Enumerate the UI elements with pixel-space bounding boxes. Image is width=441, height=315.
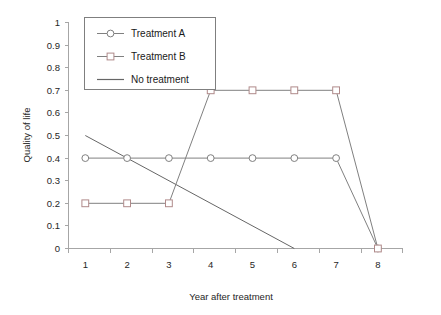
y-tick-label: 0 [55, 243, 60, 254]
x-tick-label: 3 [166, 259, 171, 270]
data-point-marker [249, 155, 256, 162]
y-tick-label: 0.4 [47, 153, 60, 164]
data-point-marker [291, 155, 298, 162]
data-point-marker [291, 87, 298, 94]
circle-marker-icon [107, 30, 114, 37]
x-axis-title: Year after treatment [189, 291, 273, 302]
legend-label-treatment-a: Treatment A [131, 28, 185, 39]
data-point-marker [82, 155, 89, 162]
data-point-marker [82, 200, 89, 207]
x-tick-label: 7 [333, 259, 338, 270]
x-tick-label: 8 [375, 259, 380, 270]
y-tick-label: 0.5 [47, 130, 60, 141]
y-tick-label: 0.1 [47, 220, 60, 231]
y-axis-title: Quality of life [21, 108, 32, 163]
data-point-marker [166, 155, 173, 162]
y-tick-label: 0.8 [47, 62, 60, 73]
y-tick-label: 0.3 [47, 175, 60, 186]
x-tick-label: 4 [208, 259, 213, 270]
legend-item-treatment-b[interactable]: Treatment B [97, 51, 186, 62]
y-tick-label: 1 [55, 17, 60, 28]
square-marker-icon [107, 53, 114, 60]
data-point-marker [124, 200, 131, 207]
legend-label-treatment-b: Treatment B [131, 51, 186, 62]
data-point-marker [207, 155, 214, 162]
y-tick-label: 0.7 [47, 85, 60, 96]
y-tick-label: 0.6 [47, 107, 60, 118]
data-point-marker [375, 245, 382, 252]
x-tick-label: 1 [83, 259, 88, 270]
data-point-marker [333, 87, 340, 94]
chart-container: 1 0.9 0.8 0.7 0.6 0.5 0.4 0.3 0.2 0.1 0 … [0, 0, 441, 315]
x-tick-label: 6 [292, 259, 297, 270]
legend-item-treatment-a[interactable]: Treatment A [97, 28, 185, 39]
y-tick-label: 0.2 [47, 198, 60, 209]
x-tick-label: 5 [250, 259, 255, 270]
line-chart: 1 0.9 0.8 0.7 0.6 0.5 0.4 0.3 0.2 0.1 0 … [0, 0, 441, 315]
data-point-marker [124, 155, 131, 162]
legend-label-no-treatment: No treatment [131, 74, 189, 85]
legend: Treatment A Treatment B No treatment [85, 18, 216, 90]
data-point-marker [249, 87, 256, 94]
x-tick-label: 2 [124, 259, 129, 270]
data-point-marker [166, 200, 173, 207]
data-point-marker [333, 155, 340, 162]
y-tick-label: 0.9 [47, 40, 60, 51]
